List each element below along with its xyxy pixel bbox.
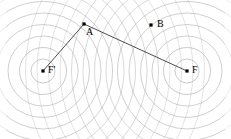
confocal-circles-figure: A B F′ F xyxy=(0,0,231,139)
point-label-f: F xyxy=(192,65,198,75)
point-label-a: A xyxy=(86,27,93,37)
point-label-f-prime: F′ xyxy=(48,65,56,75)
point-label-b: B xyxy=(157,19,164,29)
point-marker-fp xyxy=(41,69,44,72)
point-marker-b xyxy=(149,23,152,26)
point-marker-f xyxy=(185,69,188,72)
